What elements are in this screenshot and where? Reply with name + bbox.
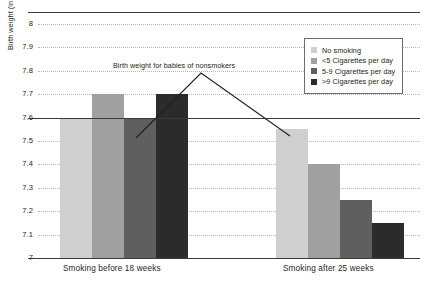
legend-item[interactable]: 5-9 Cigarettes per day — [311, 67, 395, 76]
y-axis-tick-label: 7.3 — [22, 182, 33, 191]
legend-item[interactable]: No smoking — [311, 46, 395, 55]
legend: No smoking<5 Cigarettes per day5-9 Cigar… — [304, 38, 403, 94]
bar — [92, 94, 124, 258]
x-axis-baseline — [28, 258, 420, 259]
y-axis-tick-label: 8 — [29, 19, 33, 28]
bar — [156, 94, 188, 258]
x-axis-group-label: Smoking before 18 weeks — [63, 264, 161, 273]
gridline — [38, 24, 420, 25]
legend-swatch-icon — [311, 68, 317, 74]
bar — [60, 118, 92, 258]
legend-item-label: <5 Cigarettes per day — [322, 56, 393, 65]
y-axis-tick-label: 7.1 — [22, 229, 33, 238]
bar — [276, 129, 308, 258]
legend-swatch-icon — [311, 58, 317, 64]
legend-item[interactable]: <5 Cigarettes per day — [311, 56, 395, 65]
y-axis-title-container: Birth weight (in pounds; 7.5 pounds = 7 … — [8, 0, 22, 234]
bar — [372, 223, 404, 258]
y-axis-tick-label: 7.9 — [22, 42, 33, 51]
y-axis-tick-label: 7.5 — [22, 136, 33, 145]
y-axis-tick-label: 7.2 — [22, 206, 33, 215]
legend-swatch-icon — [311, 47, 317, 53]
legend-item[interactable]: >9 Cigarettes per day — [311, 77, 395, 86]
reference-line — [28, 118, 420, 119]
y-axis-tick-label: 7.8 — [22, 65, 33, 74]
bar — [308, 164, 340, 258]
legend-item-label: No smoking — [322, 46, 361, 55]
y-axis-tick-label: 7.7 — [22, 89, 33, 98]
legend-item-label: 5-9 Cigarettes per day — [322, 67, 395, 76]
legend-item-label: >9 Cigarettes per day — [322, 77, 393, 86]
bar-chart: Birth weight (in pounds; 7.5 pounds = 7 … — [0, 0, 425, 291]
bar — [340, 200, 372, 259]
annotation-label: Birth weight for babies of nonsmokers — [113, 61, 235, 70]
y-axis-tick-label: 7.4 — [22, 159, 33, 168]
top-divider-rule — [28, 12, 420, 13]
bar — [124, 118, 156, 258]
y-axis-tick-label: 7 — [29, 253, 33, 262]
x-axis-group-label: Smoking after 25 weeks — [283, 264, 374, 273]
legend-swatch-icon — [311, 79, 317, 85]
y-axis-title: Birth weight (in pounds; 7.5 pounds = 7 … — [6, 0, 15, 50]
